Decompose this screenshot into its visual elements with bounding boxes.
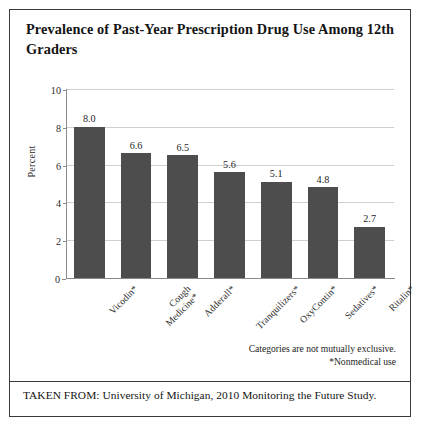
- bar: 2.7: [354, 227, 385, 278]
- y-tick-label: 0: [55, 274, 60, 285]
- figure-frame: Prevalence of Past-Year Prescription Dru…: [9, 9, 411, 417]
- bar: 5.6: [214, 172, 245, 278]
- y-tick-label: 10: [51, 85, 61, 96]
- gridline-0: 0: [66, 278, 395, 279]
- x-category-label: OxyContin*: [297, 283, 339, 325]
- x-category-label: Adderall*: [201, 283, 237, 319]
- gridline-10: 10: [67, 89, 394, 90]
- y-tick-label: 4: [56, 198, 61, 209]
- bar: 5.1: [261, 182, 292, 278]
- y-tick-mark: [62, 279, 66, 280]
- y-tick-mark: [63, 166, 67, 167]
- y-tick-label: 2: [56, 236, 61, 247]
- bar: 6.5: [167, 155, 198, 278]
- bar: 4.8: [308, 187, 339, 278]
- bar-value-label: 5.6: [223, 159, 236, 170]
- x-category-label: Vicodin*: [107, 283, 140, 316]
- bar-value-label: 6.6: [130, 140, 143, 151]
- bar: 6.6: [121, 153, 152, 278]
- y-tick-mark: [63, 241, 67, 242]
- y-tick-mark: [63, 90, 67, 91]
- x-category-label: Ritalin*: [386, 283, 416, 313]
- y-tick-mark: [63, 203, 67, 204]
- chart-footnotes: Categories are not mutually exclusive. *…: [146, 343, 396, 369]
- y-tick-label: 6: [56, 160, 61, 171]
- x-category-label: Cough Medicine*: [155, 283, 200, 328]
- gridline-8: 8: [67, 127, 394, 128]
- x-category-label: Sedatives*: [342, 283, 380, 321]
- bar: 8.0: [74, 127, 105, 278]
- x-category-label: Tranquilizers*: [253, 283, 301, 331]
- bar-value-label: 6.5: [176, 142, 189, 153]
- bar-value-label: 8.0: [83, 113, 96, 124]
- y-tick-mark: [63, 128, 67, 129]
- y-axis-title: Percent: [26, 122, 37, 202]
- source-divider: [10, 381, 410, 382]
- footnote-mutually-exclusive: Categories are not mutually exclusive.: [146, 343, 396, 356]
- bar-value-label: 5.1: [270, 168, 283, 179]
- bar-value-label: 4.8: [317, 174, 330, 185]
- bar-value-label: 2.7: [363, 213, 376, 224]
- source-attribution: TAKEN FROM: University of Michigan, 2010…: [23, 389, 401, 401]
- y-tick-label: 8: [56, 122, 61, 133]
- footnote-nonmedical-use: *Nonmedical use: [146, 356, 396, 369]
